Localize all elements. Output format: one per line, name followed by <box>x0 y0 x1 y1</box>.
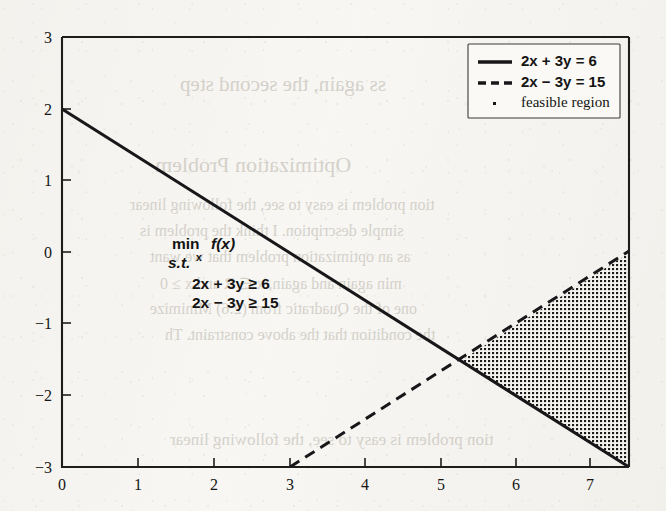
optimization-problem-annotation: min x f(x) s.t. 2x + 3y ≥ 6 2x − 3y ≥ 15 <box>168 235 279 311</box>
legend-label: feasible region <box>521 94 610 110</box>
chart-figure: 0 1 2 3 4 5 6 7 3 2 1 0 −1 −2 −3 <box>0 0 666 511</box>
chart-legend[interactable]: 2x + 3y = 6 2x − 3y = 15 feasible region <box>468 44 620 118</box>
y-tick-label: 3 <box>44 29 52 46</box>
x-tick-label: 7 <box>586 476 594 493</box>
line-2x-plus-3y-equals-6 <box>62 109 629 467</box>
dot-swatch-icon <box>493 102 496 105</box>
annotation-subject-to: s.t. <box>168 254 190 271</box>
x-tick-label: 4 <box>361 476 369 493</box>
y-axis-ticks <box>62 37 71 467</box>
x-tick-label: 1 <box>134 476 142 493</box>
feasible-region <box>462 253 629 467</box>
legend-label: 2x − 3y = 15 <box>521 73 605 90</box>
y-tick-label: 2 <box>44 101 52 118</box>
y-tick-label: 1 <box>44 172 52 189</box>
x-tick-label: 0 <box>58 476 66 493</box>
x-tick-label: 5 <box>437 476 445 493</box>
y-tick-label: −1 <box>35 315 52 332</box>
y-tick-label: −3 <box>35 459 52 476</box>
y-tick-label: −2 <box>35 387 52 404</box>
x-axis-tick-labels: 0 1 2 3 4 5 6 7 <box>58 476 594 493</box>
annotation-min-subscript: x <box>196 251 202 263</box>
x-tick-label: 3 <box>286 476 294 493</box>
y-axis-tick-labels: 3 2 1 0 −1 −2 −3 <box>35 29 52 476</box>
annotation-min-label: min <box>172 235 200 252</box>
y-tick-label: 0 <box>44 244 52 261</box>
x-tick-label: 6 <box>512 476 520 493</box>
annotation-objective-function: f(x) <box>211 235 235 252</box>
x-axis-ticks <box>62 458 590 467</box>
x-tick-label: 2 <box>210 476 218 493</box>
annotation-constraint-1: 2x + 3y ≥ 6 <box>192 275 270 292</box>
legend-label: 2x + 3y = 6 <box>521 52 597 69</box>
annotation-constraint-2: 2x − 3y ≥ 15 <box>192 294 279 311</box>
plot-canvas: 0 1 2 3 4 5 6 7 3 2 1 0 −1 −2 −3 <box>0 0 666 511</box>
